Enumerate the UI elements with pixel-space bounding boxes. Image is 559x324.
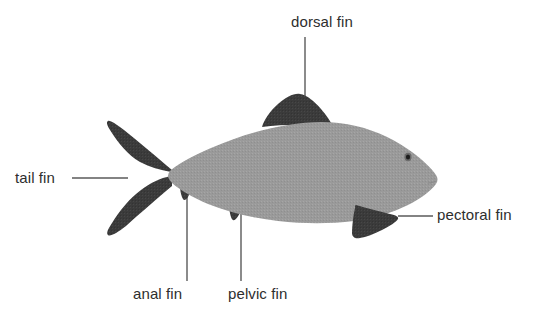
fish-eye bbox=[404, 153, 411, 161]
fish-body-shape bbox=[168, 122, 438, 223]
dorsal-fin-shape bbox=[262, 94, 333, 127]
fish-illustration bbox=[0, 0, 559, 324]
label-pectoral-fin: pectoral fin bbox=[437, 207, 512, 222]
label-anal-fin: anal fin bbox=[133, 286, 182, 301]
fish-anatomy-diagram: dorsal fin tail fin pectoral fin anal fi… bbox=[0, 0, 559, 324]
label-tail-fin: tail fin bbox=[15, 170, 55, 185]
label-pelvic-fin: pelvic fin bbox=[228, 286, 287, 301]
label-dorsal-fin: dorsal fin bbox=[291, 14, 353, 29]
